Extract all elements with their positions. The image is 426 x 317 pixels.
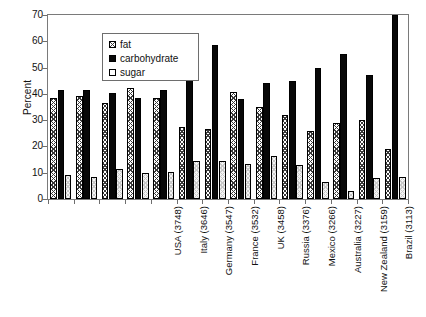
x-tick-label: USA (3748) [173,206,183,314]
x-tick-label: Brazil (3113) [404,206,414,314]
bar-sugar [168,172,175,199]
x-tick-label: Australia (3227) [353,206,363,314]
x-tick-mark [177,200,178,204]
y-tick-label: 50 [19,63,43,73]
plot-area: fat carbohydrate sugar [47,14,409,200]
legend-swatch-sugar-icon [109,69,116,76]
bar-fat [230,92,237,199]
x-tick-mark [408,200,409,204]
y-tick-label: 10 [19,168,43,178]
bar-fat [102,103,109,199]
x-tick-mark [331,200,332,204]
bar-sugar [65,175,72,199]
bar-sugar [245,164,252,199]
bar-sugar [322,182,329,199]
chart-legend: fat carbohydrate sugar [102,33,199,81]
x-tick-mark [48,200,49,204]
x-tick-mark [305,200,306,204]
bar-sugar [296,165,303,199]
bar-group [256,15,277,199]
bar-fat [179,127,186,199]
bar-carbohydrate [58,90,65,199]
bar-group [307,15,328,199]
x-tick-mark [382,200,383,204]
bar-carbohydrate [340,54,347,199]
y-tick-label: 60 [19,36,43,46]
y-tick-label: 20 [19,141,43,151]
x-tick-mark [125,200,126,204]
bar-group [76,15,97,199]
y-tick-label: 0 [19,194,43,204]
bar-sugar [373,178,380,199]
bar-group [333,15,354,199]
bar-carbohydrate [289,81,296,199]
bar-carbohydrate [315,68,322,199]
x-tick-mark [202,200,203,204]
bar-carbohydrate [263,83,270,199]
bar-chart: Percent 010203040506070 fat carbohydrate… [0,0,426,317]
bar-sugar [271,156,278,199]
bar-sugar [116,169,123,199]
y-tick-label: 30 [19,115,43,125]
bar-group [282,15,303,199]
bar-carbohydrate [83,90,90,199]
bar-carbohydrate [212,45,219,199]
bar-carbohydrate [366,75,373,199]
legend-label-carbohydrate: carbohydrate [120,54,178,64]
x-tick-label: France (3532) [250,206,260,314]
bar-group [385,15,406,199]
bar-fat [282,115,289,199]
bar-fat [307,131,314,199]
legend-label-fat: fat [120,40,131,50]
bar-fat [333,123,340,199]
bar-fat [256,107,263,199]
y-tick-label: 40 [19,89,43,99]
x-tick-label: Germany (3547) [224,206,234,314]
bar-fat [50,98,57,199]
x-tick-label: Russia (3376) [301,206,311,314]
bar-group [50,15,71,199]
legend-item-fat: fat [109,38,198,51]
legend-swatch-fat-icon [109,41,116,48]
x-tick-label: UK (3458) [276,206,286,314]
x-tick-mark [74,200,75,204]
bar-fat [205,129,212,199]
bar-carbohydrate [135,98,142,199]
x-tick-mark [228,200,229,204]
x-tick-mark [99,200,100,204]
bar-group [359,15,380,199]
legend-swatch-carbohydrate-icon [109,55,116,62]
bar-fat [153,98,160,199]
legend-item-sugar: sugar [109,66,198,79]
x-tick-mark [279,200,280,204]
bar-group [230,15,251,199]
x-tick-label: Mexico (3266) [327,206,337,314]
bar-fat [359,120,366,199]
bar-sugar [348,191,355,199]
x-tick-mark [357,200,358,204]
y-tick-label: 70 [19,10,43,20]
bar-group [205,15,226,199]
bar-sugar [399,177,406,199]
bar-carbohydrate [109,93,116,199]
legend-label-sugar: sugar [120,68,145,78]
bar-carbohydrate [160,90,167,199]
x-tick-mark [254,200,255,204]
bar-carbohydrate [392,15,399,199]
x-tick-label: Italy (3646) [199,206,209,314]
x-tick-label: New Zealand (3159) [379,206,389,314]
bar-sugar [193,161,200,199]
legend-item-carbohydrate: carbohydrate [109,52,198,65]
bar-sugar [219,161,226,199]
bar-sugar [91,177,98,199]
bar-fat [76,96,83,199]
bar-sugar [142,173,149,199]
x-tick-mark [151,200,152,204]
bar-fat [385,149,392,199]
bar-fat [127,88,134,199]
bar-carbohydrate [238,99,245,199]
